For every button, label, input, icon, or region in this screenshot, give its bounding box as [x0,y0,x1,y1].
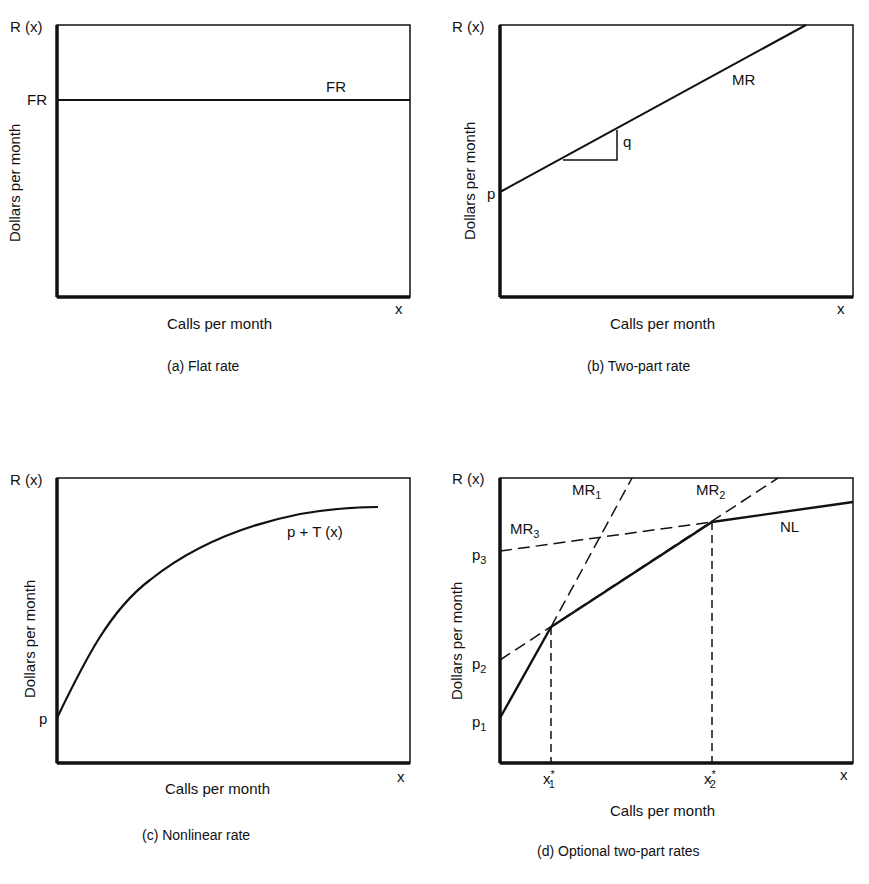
x-axis-label: Calls per month [165,780,270,797]
two-part-rate-plot [440,0,869,400]
x-tick-x1-star: x*1 [543,768,555,790]
curve-label-fr: FR [326,78,346,95]
slope-label-q: q [623,133,631,150]
curve-label-mr3: MR3 [510,520,539,540]
flat-rate-plot [0,0,434,400]
curve-label-mr1: MR1 [572,481,601,501]
y-top-label: R (x) [10,18,43,35]
x-end-label: x [397,768,405,785]
caption-a: (a) Flat rate [167,358,239,374]
x-end-label: x [840,766,848,783]
x-tick-x2-star: x*2 [704,768,716,790]
nonlinear-rate-plot [0,450,434,884]
y-top-label: R (x) [452,470,485,487]
caption-c: (c) Nonlinear rate [142,827,250,843]
x-end-label: x [837,300,845,317]
y-tick-p1: p1 [472,713,486,733]
x-end-label: x [395,300,403,317]
curve-label-nl: NL [780,518,799,535]
panel-optional-two-part-rates: R (x) MR1 MR2 MR3 NL p3 p2 p1 Dollars pe… [440,450,869,884]
curve-label-p-plus-t: p + T (x) [287,523,343,540]
y-tick-p: p [39,710,47,727]
y-top-label: R (x) [10,471,43,488]
y-top-label: R (x) [452,18,485,35]
caption-d: (d) Optional two-part rates [537,843,700,859]
y-axis-label: Dollars per month [448,582,465,700]
y-tick-p3: p3 [472,546,486,566]
panel-two-part-rate: R (x) p MR q Dollars per month x Calls p… [440,0,869,400]
caption-b: (b) Two-part rate [587,358,690,374]
y-axis-label: Dollars per month [6,124,23,242]
x-axis-label: Calls per month [610,802,715,819]
y-axis-label: Dollars per month [461,122,478,240]
y-tick-p2: p2 [472,655,486,675]
panel-flat-rate: R (x) FR FR Dollars per month x Calls pe… [0,0,434,400]
curve-label-mr: MR [732,71,755,88]
y-tick-fr: FR [27,91,47,108]
y-axis-label: Dollars per month [21,580,38,698]
y-tick-p: p [487,185,495,202]
x-axis-label: Calls per month [167,315,272,332]
x-axis-label: Calls per month [610,315,715,332]
panel-nonlinear-rate: R (x) p p + T (x) Dollars per month x Ca… [0,450,434,884]
curve-label-mr2: MR2 [696,481,725,501]
